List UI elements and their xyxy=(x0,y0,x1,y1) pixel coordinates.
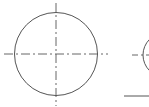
circle-1-group xyxy=(4,3,108,106)
technical-drawing xyxy=(0,0,149,107)
circle-2-group xyxy=(132,33,149,77)
